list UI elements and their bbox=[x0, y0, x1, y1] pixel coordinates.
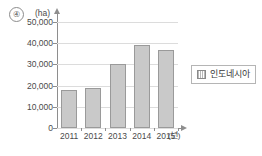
bar bbox=[110, 64, 126, 128]
x-axis-tick-label: 2011 bbox=[56, 131, 82, 141]
plot-area bbox=[57, 22, 178, 128]
y-axis-tick-label: 30,000 bbox=[7, 60, 53, 69]
y-axis-tick-label: 40,000 bbox=[7, 39, 53, 48]
x-axis-tick-label: 2014 bbox=[129, 131, 155, 141]
bar bbox=[85, 88, 101, 128]
y-axis-tick-label: 0 bbox=[7, 124, 53, 133]
y-axis-tick-labels: 010,00020,00030,00040,00050,000 bbox=[4, 22, 53, 128]
x-axis-tick-mark bbox=[154, 128, 155, 131]
y-axis-arrow-icon bbox=[54, 8, 60, 14]
x-axis-tick-label: 2013 bbox=[105, 131, 131, 141]
legend-label: 인도네시아 bbox=[210, 70, 250, 79]
bar bbox=[158, 50, 174, 128]
x-axis-tick-mark bbox=[105, 128, 106, 131]
y-axis-tick-label: 50,000 bbox=[7, 18, 53, 27]
y-axis-tick-label: 10,000 bbox=[7, 103, 53, 112]
gridline bbox=[57, 128, 178, 129]
bar bbox=[134, 45, 150, 128]
y-axis-tick-label: 20,000 bbox=[7, 82, 53, 91]
gridline bbox=[57, 22, 178, 23]
x-axis-tick-mark bbox=[130, 128, 131, 131]
x-axis-tick-labels: 20112012201320142015 bbox=[57, 131, 182, 145]
x-axis-unit-label: (년) bbox=[168, 131, 180, 141]
gridline bbox=[57, 43, 178, 44]
bar bbox=[61, 90, 77, 128]
x-axis-tick-mark bbox=[178, 128, 179, 131]
legend-swatch-icon bbox=[197, 70, 206, 79]
x-axis-tick-mark bbox=[81, 128, 82, 131]
chart-legend: 인도네시아 bbox=[191, 65, 256, 84]
x-axis-tick-label: 2012 bbox=[80, 131, 106, 141]
